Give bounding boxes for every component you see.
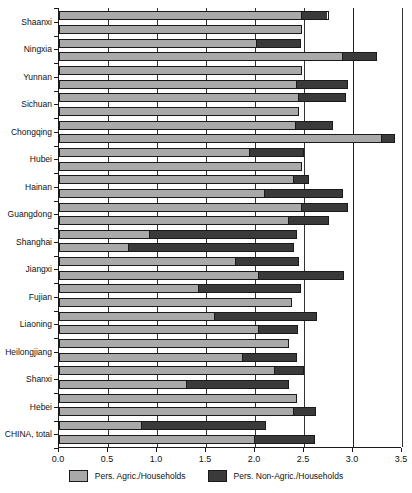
x-tick-label-1.5: 1.5	[199, 454, 212, 464]
bar-segment-agric	[60, 204, 301, 211]
y-axis-label-guangdong: Guangdong	[8, 209, 52, 219]
x-tick-label-0.0: 0.0	[52, 454, 65, 464]
x-tick-2.5	[303, 448, 304, 452]
stacked-bar	[59, 353, 297, 362]
bar-row	[59, 228, 401, 242]
bar-segment-agric	[60, 422, 141, 429]
bar-row	[59, 132, 401, 146]
y-axis-label-jiangxi: Jiangxi	[26, 264, 52, 274]
bar-segment-nonagric	[128, 244, 293, 251]
bar-segment-nonagric	[381, 135, 394, 142]
bar-segment-agric	[60, 40, 256, 47]
bar-row	[59, 64, 401, 78]
bar-segment-nonagric	[258, 326, 297, 333]
stacked-bar	[59, 298, 292, 307]
stacked-bar	[59, 230, 297, 239]
bar-segment-nonagric	[198, 285, 300, 292]
stacked-bar	[59, 107, 299, 116]
bar-segment-agric	[60, 81, 296, 88]
bar-segment-nonagric	[141, 422, 265, 429]
x-tick-1.0	[156, 448, 157, 452]
bar-segment-agric	[60, 67, 301, 74]
bar-segment-agric	[60, 326, 258, 333]
bar-row	[59, 350, 401, 364]
y-axis-label-shaanxi: Shaanxi	[21, 17, 52, 27]
bar-segment-agric	[60, 436, 254, 443]
bar-row	[59, 146, 401, 160]
bar-segment-agric	[60, 163, 301, 170]
bar-row	[59, 105, 401, 119]
bar-segment-nonagric	[258, 272, 344, 279]
bar-segment-nonagric	[254, 436, 313, 443]
stacked-bar	[59, 394, 297, 403]
bar-row	[59, 118, 401, 132]
bar-segment-nonagric	[214, 313, 316, 320]
x-tick-0.0	[58, 448, 59, 452]
bar-row	[59, 323, 401, 337]
bar-segment-agric	[60, 122, 295, 129]
bar-segment-agric	[60, 395, 296, 402]
legend-swatch-nonagric	[208, 470, 227, 482]
x-tick-3.0	[352, 448, 353, 452]
bar-row	[59, 255, 401, 269]
legend-label-agric: Pers. Agric./Households	[95, 471, 186, 481]
stacked-bar	[59, 407, 316, 416]
stacked-bar	[59, 243, 294, 252]
x-tick-label-3.0: 3.0	[346, 454, 359, 464]
bar-row	[59, 296, 401, 310]
legend: Pers. Agric./Households Pers. Non-Agric.…	[0, 470, 412, 482]
stacked-bar	[59, 257, 299, 266]
bar-segment-agric	[60, 53, 342, 60]
bar-segment-nonagric	[274, 367, 303, 374]
bar-segment-agric	[60, 354, 242, 361]
x-tick-2.0	[254, 448, 255, 452]
plot-area	[58, 8, 401, 448]
y-axis-label-hebei: Hebei	[30, 402, 52, 412]
bar-row	[59, 364, 401, 378]
stacked-bar	[59, 66, 302, 75]
bar-row	[59, 405, 401, 419]
bar-segment-agric	[60, 299, 291, 306]
stacked-bar	[59, 80, 348, 89]
stacked-bar	[59, 271, 344, 280]
stacked-bar	[59, 203, 348, 212]
stacked-bar	[59, 121, 333, 130]
stacked-bar	[59, 52, 377, 61]
y-axis-label-shanxi: Shanxi	[26, 374, 52, 384]
stacked-bar	[59, 339, 289, 348]
bar-segment-nonagric	[149, 231, 296, 238]
bar-segment-nonagric	[298, 94, 345, 101]
bar-row	[59, 200, 401, 214]
bar-row	[59, 50, 401, 64]
bar-segment-agric	[60, 231, 149, 238]
bar-row	[59, 159, 401, 173]
bar-row	[59, 241, 401, 255]
bar-row	[59, 91, 401, 105]
stacked-bar	[59, 435, 315, 444]
bar-segment-nonagric	[186, 381, 288, 388]
chart-figure: ShaanxiNingxiaYunnanSichuanChongqingHube…	[0, 0, 412, 493]
bar-row	[59, 77, 401, 91]
stacked-bar	[59, 148, 304, 157]
bar-series-container	[59, 8, 401, 447]
bar-segment-agric	[60, 26, 301, 33]
y-axis-label-sichuan: Sichuan	[21, 99, 52, 109]
stacked-bar	[59, 284, 301, 293]
bar-segment-nonagric	[235, 258, 298, 265]
bar-row	[59, 419, 401, 433]
y-axis-label-fujian: Fujian	[29, 292, 52, 302]
y-axis-label-hainan: Hainan	[25, 182, 52, 192]
bar-row	[59, 36, 401, 50]
x-tick-0.5	[107, 448, 108, 452]
bar-segment-nonagric	[293, 408, 314, 415]
legend-item-nonagric: Pers. Non-Agric./Households	[208, 470, 344, 482]
bar-segment-agric	[60, 12, 301, 19]
stacked-bar	[59, 189, 343, 198]
x-tick-label-2.0: 2.0	[248, 454, 261, 464]
bar-segment-agric	[60, 258, 235, 265]
stacked-bar	[59, 216, 329, 225]
y-axis-label-shanghai: Shanghai	[16, 237, 52, 247]
bar-segment-agric	[60, 244, 128, 251]
y-axis-label-chongqing: Chongqing	[11, 127, 52, 137]
x-tick-1.5	[205, 448, 206, 452]
